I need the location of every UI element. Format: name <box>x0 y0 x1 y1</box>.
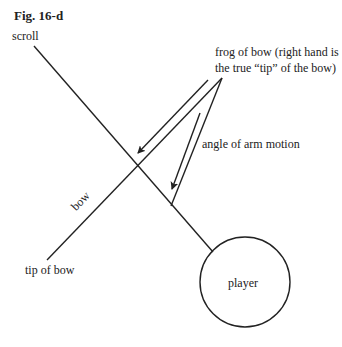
bow-direction-arrow <box>138 80 208 153</box>
player-label: player <box>228 275 258 291</box>
scroll-label: scroll <box>12 28 39 44</box>
frog-label-line2: the true “tip” of the bow) <box>215 60 336 76</box>
tip-of-bow-label: tip of bow <box>25 262 74 278</box>
angle-label: angle of arm motion <box>202 136 300 152</box>
arm-direction-arrow <box>172 113 200 189</box>
frog-label-line1: frog of bow (right hand is <box>215 44 339 60</box>
